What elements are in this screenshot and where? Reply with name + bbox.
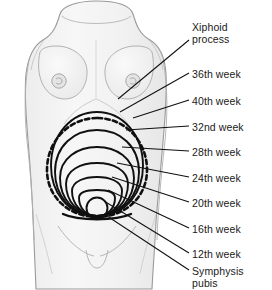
left-areola bbox=[52, 74, 66, 88]
torso-illustration bbox=[25, 1, 167, 289]
fundal-height-diagram bbox=[0, 0, 272, 290]
